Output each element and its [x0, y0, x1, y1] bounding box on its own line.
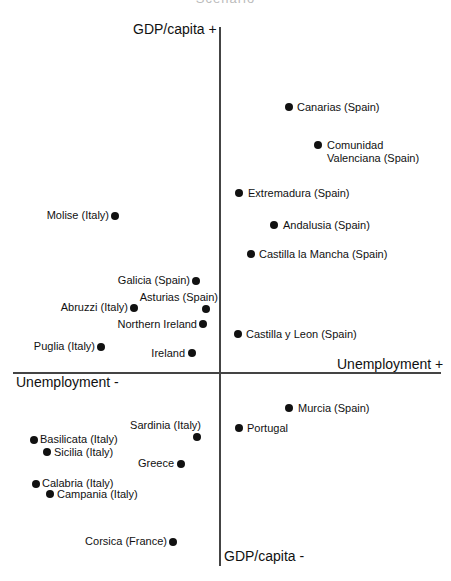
data-point-label: Basilicata (Italy) — [40, 433, 118, 446]
data-point-marker — [177, 460, 185, 468]
data-point-marker — [192, 277, 200, 285]
data-point-label: Comunidad Valenciana (Spain) — [327, 139, 419, 165]
data-point-label: Andalusia (Spain) — [283, 219, 370, 232]
data-point-label: Ireland — [151, 347, 185, 360]
data-point-marker — [285, 103, 293, 111]
data-point-marker — [30, 436, 38, 444]
data-point-marker — [314, 141, 322, 149]
data-point-label: Greece — [138, 457, 174, 470]
data-point-label: Sicilia (Italy) — [54, 446, 113, 459]
data-point-label: Sardinia (Italy) — [130, 419, 201, 432]
data-point-marker — [202, 305, 210, 313]
data-point-marker — [247, 250, 255, 258]
data-point-label: Castilla la Mancha (Spain) — [259, 248, 387, 261]
data-point-label: Abruzzi (Italy) — [61, 301, 128, 314]
data-point-marker — [285, 404, 293, 412]
data-point-marker — [188, 349, 196, 357]
data-point-label: Corsica (France) — [85, 535, 167, 548]
y-axis-positive-label: GDP/capita + — [133, 21, 217, 37]
data-point-marker — [130, 304, 138, 312]
data-point-label: Campania (Italy) — [57, 488, 138, 501]
data-point-marker — [235, 189, 243, 197]
y-axis-line — [219, 27, 221, 566]
data-point-label: Extremadura (Spain) — [248, 187, 350, 200]
scatter-chart: Scenario GDP/capita + GDP/capita - Unemp… — [0, 0, 451, 581]
chart-title: Scenario — [0, 0, 451, 6]
data-point-label: Molise (Italy) — [47, 209, 109, 222]
data-point-label: Portugal — [247, 422, 288, 435]
data-point-marker — [46, 490, 54, 498]
data-point-marker — [169, 538, 177, 546]
data-point-marker — [193, 433, 201, 441]
data-point-label: Puglia (Italy) — [34, 340, 95, 353]
data-point-marker — [97, 343, 105, 351]
data-point-label: Murcia (Spain) — [298, 402, 370, 415]
data-point-label: Asturias (Spain) — [140, 291, 218, 304]
x-axis-negative-label: Unemployment - — [16, 374, 119, 390]
data-point-marker — [32, 480, 40, 488]
data-point-label: Canarias (Spain) — [297, 101, 380, 114]
y-axis-negative-label: GDP/capita - — [224, 548, 304, 564]
data-point-marker — [235, 424, 243, 432]
data-point-marker — [199, 320, 207, 328]
data-point-label: Castilla y Leon (Spain) — [246, 328, 357, 341]
data-point-marker — [43, 448, 51, 456]
data-point-marker — [270, 221, 278, 229]
data-point-marker — [234, 330, 242, 338]
data-point-label: Northern Ireland — [118, 318, 198, 331]
data-point-marker — [111, 212, 119, 220]
x-axis-positive-label: Unemployment + — [337, 356, 443, 372]
data-point-label: Galicia (Spain) — [118, 274, 190, 287]
